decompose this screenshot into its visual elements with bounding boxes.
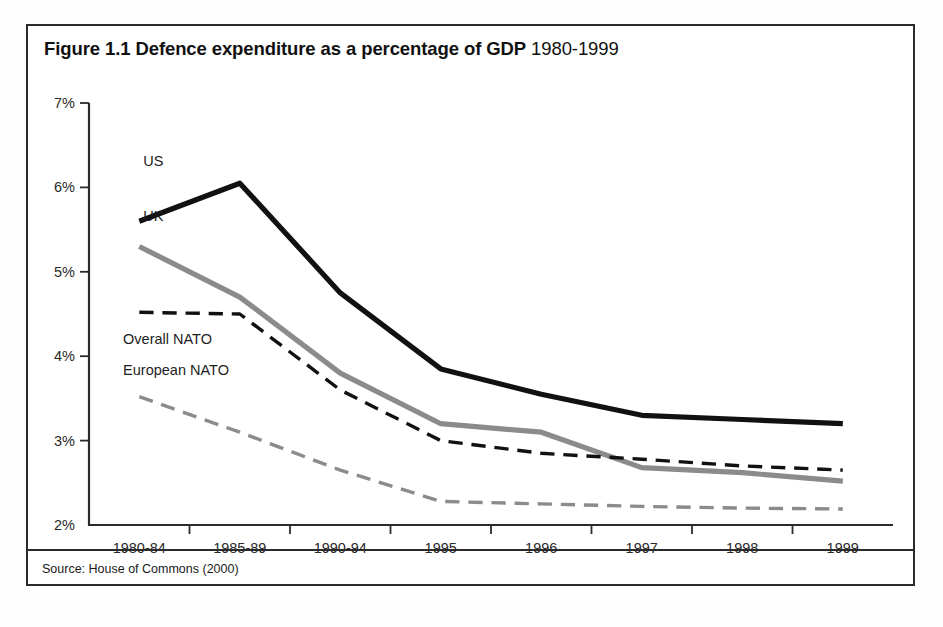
x-tick-label: 1980-84 bbox=[113, 540, 166, 556]
x-tick-label: 1995 bbox=[425, 540, 457, 556]
y-tick-label: 6% bbox=[54, 179, 75, 195]
source-divider bbox=[28, 549, 913, 551]
series-label-overall-nato: Overall NATO bbox=[123, 331, 212, 347]
y-tick-label: 2% bbox=[54, 517, 75, 533]
x-tick-label: 1998 bbox=[726, 540, 758, 556]
y-tick-label: 5% bbox=[54, 264, 75, 280]
line-chart: 2%3%4%5%6%7% 1980-841985-891990-94199519… bbox=[28, 26, 917, 588]
figure-root: Figure 1.1 Defence expenditure as a perc… bbox=[0, 0, 943, 627]
source-note: Source: House of Commons (2000) bbox=[42, 562, 239, 576]
x-axis-ticks: 1980-841985-891990-941995199619971998199… bbox=[113, 525, 859, 556]
y-tick-label: 3% bbox=[54, 433, 75, 449]
y-tick-label: 4% bbox=[54, 348, 75, 364]
series-line-uk bbox=[139, 247, 843, 482]
series-line-european-nato bbox=[139, 397, 843, 509]
series-label-uk: UK bbox=[143, 208, 163, 224]
x-tick-label: 1985-89 bbox=[213, 540, 266, 556]
series-label-european-nato: European NATO bbox=[123, 362, 229, 378]
series-label-us: US bbox=[143, 153, 163, 169]
series-line-overall-nato bbox=[139, 312, 843, 470]
x-tick-label: 1996 bbox=[525, 540, 557, 556]
x-tick-label: 1997 bbox=[626, 540, 658, 556]
y-axis-ticks: 2%3%4%5%6%7% bbox=[54, 95, 89, 533]
x-tick-label: 1999 bbox=[827, 540, 859, 556]
chart-series bbox=[139, 183, 843, 509]
figure-frame: Figure 1.1 Defence expenditure as a perc… bbox=[26, 24, 915, 586]
y-tick-label: 7% bbox=[54, 95, 75, 111]
x-tick-label: 1990-94 bbox=[314, 540, 367, 556]
